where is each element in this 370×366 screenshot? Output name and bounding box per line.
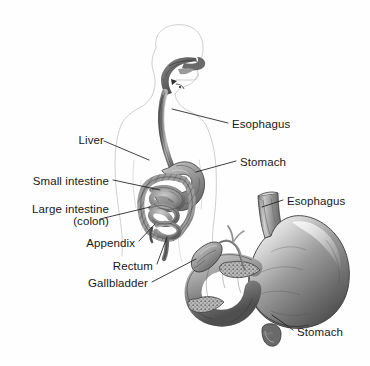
leader-liver xyxy=(104,141,149,160)
label-gallbladder: Gallbladder xyxy=(63,277,148,290)
label-stomach-lower: Stomach xyxy=(297,326,343,339)
esophagus-tube xyxy=(159,92,172,169)
label-colon: (colon) xyxy=(9,215,109,228)
leader-esophagus-upper xyxy=(172,109,228,123)
label-appendix: Appendix xyxy=(59,237,135,250)
label-liver: Liver xyxy=(44,134,104,147)
label-small-intestine: Small intestine xyxy=(9,175,109,188)
label-esophagus-upper: Esophagus xyxy=(232,118,290,131)
small-intestine-coil xyxy=(151,188,183,238)
label-esophagus-lower: Esophagus xyxy=(287,195,345,208)
label-rectum: Rectum xyxy=(93,260,153,273)
anatomy-figure: Esophagus Liver Stomach Small intestine … xyxy=(0,0,370,366)
artist-signature: Flom xyxy=(263,331,273,337)
label-stomach-upper: Stomach xyxy=(240,156,286,169)
